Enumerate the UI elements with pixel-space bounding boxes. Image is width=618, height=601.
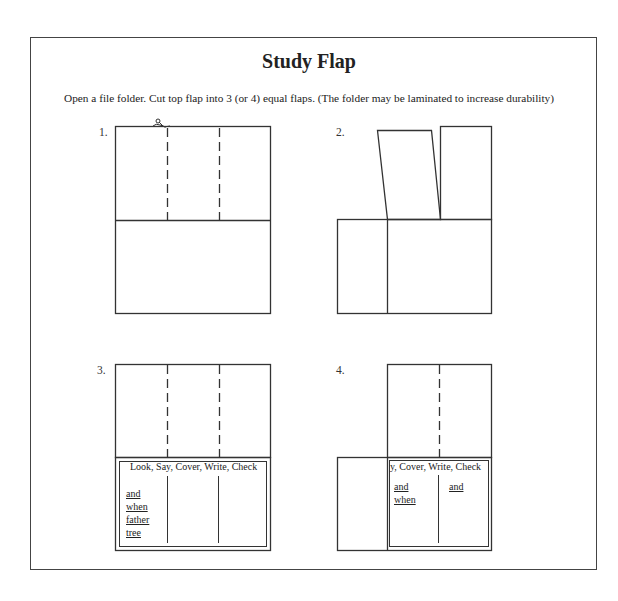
- word-and: and: [126, 487, 140, 500]
- word-and-right: and: [449, 480, 463, 493]
- step-3-label: 3.: [97, 364, 106, 376]
- lifted-flap: [378, 131, 441, 220]
- word-when-left: when: [394, 493, 416, 506]
- word-tree: tree: [126, 526, 141, 539]
- word-when: when: [126, 500, 148, 513]
- scissors-icon: [153, 119, 170, 127]
- step-1-folder: [116, 127, 271, 314]
- standing-flap: [441, 127, 492, 220]
- study-flap-diagram: [0, 0, 618, 601]
- step-3-header: Look, Say, Cover, Write, Check: [130, 461, 257, 472]
- word-and-left: and: [394, 480, 408, 493]
- step-2-folder: [338, 127, 492, 314]
- step-4-label: 4.: [336, 364, 345, 376]
- step-4-header: y, Cover, Write, Check: [390, 461, 481, 472]
- step-4-folder: [338, 365, 492, 551]
- word-father: father: [126, 513, 149, 526]
- step-2-label: 2.: [336, 126, 345, 138]
- step-1-label: 1.: [99, 126, 108, 138]
